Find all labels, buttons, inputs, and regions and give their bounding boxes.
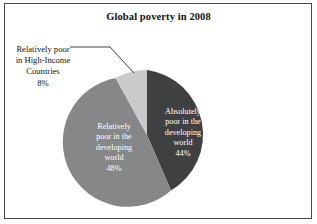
- pie-slice-label-absolutely-poor-developing: Absolutely poor in the developing world …: [152, 107, 214, 159]
- figure-container: Global poverty in 2008 Absolutely poor i…: [0, 0, 317, 224]
- pie-slice-label-relatively-poor-developing: Relatively poor in the developing world …: [83, 122, 145, 174]
- pie-callout-label-relatively-poor-high-income: Relatively poor in High-Income Countries…: [4, 44, 82, 89]
